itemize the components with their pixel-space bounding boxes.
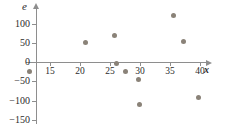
data-point [171,13,176,18]
y-tick-mark [32,81,36,82]
x-tick-label: 35 [158,66,182,76]
y-axis-line [36,8,37,124]
data-point [112,33,117,38]
x-tick-label: 20 [68,66,92,76]
data-point [136,77,141,82]
y-axis-arrow-icon [33,3,39,9]
y-tick-label: 0 [0,57,30,67]
y-tick-label: −100 [0,96,30,106]
x-tick-label: 30 [128,66,152,76]
data-point [137,102,142,107]
x-tick-label: 40 [188,66,212,76]
x-tick-label: 25 [98,66,122,76]
y-tick-label: 100 [0,19,30,29]
y-tick-mark [32,62,36,63]
y-tick-label: −50 [0,76,30,86]
y-tick-label: 50 [0,38,30,48]
y-axis-title: ^e [22,0,27,12]
residual-plot-figure: ^e x 100500−50−100−150 152025303540 [0,0,225,131]
y-tick-mark [32,24,36,25]
y-tick-label: −150 [0,115,30,125]
caret-accent-icon: ^ [22,0,26,1]
y-tick-mark [32,120,36,121]
y-tick-mark [32,43,36,44]
x-tick-label: 15 [38,66,62,76]
data-point [27,69,32,74]
y-tick-mark [32,101,36,102]
data-point [83,40,88,45]
scatter-plot-canvas: ^e x 100500−50−100−150 152025303540 [0,0,225,131]
data-point [181,39,186,44]
data-point [196,95,201,100]
